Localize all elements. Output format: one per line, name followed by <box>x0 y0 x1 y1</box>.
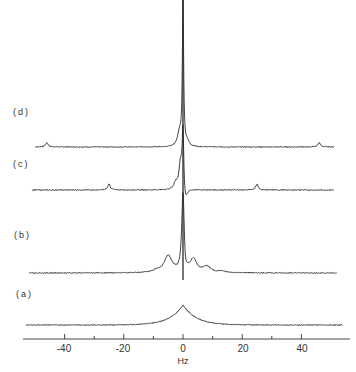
trace-label-b: (b) <box>14 230 31 240</box>
x-axis <box>23 334 350 339</box>
tick-label-minus40: -40 <box>57 343 71 354</box>
tick-label-0: 0 <box>180 343 186 354</box>
spectrum-trace-a <box>26 305 342 326</box>
tick-label-20: 20 <box>237 343 248 354</box>
trace-label-c: (c) <box>13 159 30 169</box>
x-axis-title: Hz <box>178 356 189 366</box>
spectrum-trace-d <box>35 0 334 147</box>
tick-label-minus20: -20 <box>116 343 130 354</box>
spectra-traces <box>26 0 342 325</box>
tick-label-40: 40 <box>296 343 307 354</box>
trace-label-d: (d) <box>13 107 30 117</box>
trace-label-a: (a) <box>16 289 33 299</box>
nmr-spectra-figure <box>0 0 356 372</box>
